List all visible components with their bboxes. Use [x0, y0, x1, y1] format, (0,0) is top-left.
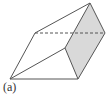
shaded-face — [65, 3, 105, 79]
prism-diagram: (a) — [0, 0, 112, 98]
figure-label: (a) — [3, 80, 16, 94]
prism-drawing — [0, 0, 112, 98]
